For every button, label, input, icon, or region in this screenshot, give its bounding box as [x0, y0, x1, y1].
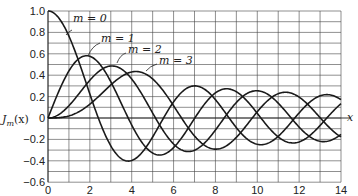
svg-text:1.0: 1.0: [30, 5, 45, 17]
svg-text:m = 0: m = 0: [73, 12, 107, 25]
svg-text:4: 4: [129, 184, 135, 196]
svg-text:0: 0: [45, 184, 51, 196]
svg-text:8: 8: [212, 184, 218, 196]
annotation-m3: m = 3: [146, 54, 193, 71]
y-axis-label: Jm(x): [0, 113, 29, 128]
svg-text:0.4: 0.4: [30, 69, 45, 81]
x-axis-label: x: [347, 111, 354, 124]
svg-text:12: 12: [293, 184, 305, 196]
svg-text:2: 2: [87, 184, 93, 196]
svg-text:−0.4: −0.4: [23, 155, 45, 167]
annotation-m2: m = 2: [117, 43, 162, 63]
tick-labels: 024681012141.00.80.60.40.20−0.2−0.4−0.6: [23, 5, 347, 196]
svg-text:0.2: 0.2: [30, 91, 45, 103]
svg-text:m = 2: m = 2: [128, 43, 162, 56]
svg-text:6: 6: [171, 184, 177, 196]
svg-text:10: 10: [251, 184, 263, 196]
svg-text:0.8: 0.8: [30, 26, 45, 38]
svg-text:0: 0: [39, 112, 45, 124]
svg-text:m = 3: m = 3: [159, 54, 193, 67]
bessel-chart: 024681012141.00.80.60.40.20−0.2−0.4−0.6 …: [0, 0, 358, 196]
svg-text:−0.2: −0.2: [23, 133, 45, 145]
svg-text:0.6: 0.6: [30, 48, 45, 60]
svg-text:−0.6: −0.6: [23, 176, 45, 188]
svg-text:14: 14: [335, 184, 347, 196]
